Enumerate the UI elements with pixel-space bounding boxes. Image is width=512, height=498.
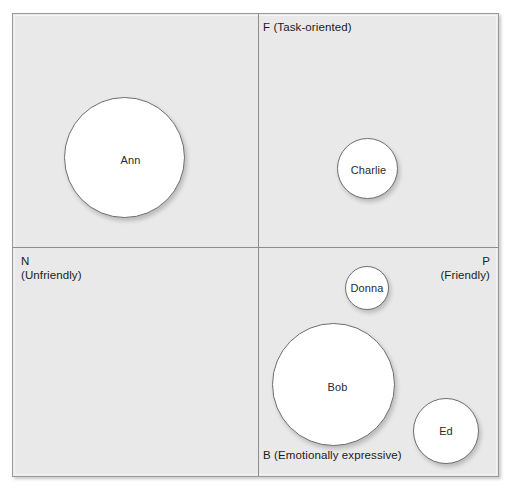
bubble-charlie[interactable]: Charlie bbox=[337, 138, 398, 199]
bubble-label: Ann bbox=[121, 154, 141, 166]
bubble-donna[interactable]: Donna bbox=[345, 266, 389, 310]
bubble-ann[interactable]: Ann bbox=[64, 97, 185, 218]
axis-line-horizontal bbox=[13, 247, 498, 248]
axis-label-left: N (Unfriendly) bbox=[21, 254, 82, 282]
bubble-ed[interactable]: Ed bbox=[413, 398, 479, 464]
axis-label-right: P (Friendly) bbox=[440, 254, 490, 282]
bubble-label: Ed bbox=[439, 425, 453, 437]
bubble-label: Donna bbox=[351, 282, 384, 294]
quadrant-chart: F (Task-oriented) B (Emotionally express… bbox=[12, 13, 499, 477]
bubble-label: Bob bbox=[328, 381, 348, 393]
bubble-bob[interactable]: Bob bbox=[272, 323, 395, 446]
axis-label-top: F (Task-oriented) bbox=[263, 20, 352, 34]
bubble-label: Charlie bbox=[351, 164, 387, 176]
axis-line-vertical bbox=[258, 14, 259, 476]
axis-label-bottom: B (Emotionally expressive) bbox=[263, 448, 402, 462]
